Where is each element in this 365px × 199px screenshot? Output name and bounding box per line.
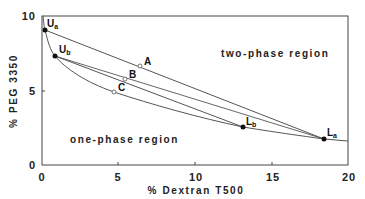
y-axis-label: % PEG 3350 <box>8 54 19 128</box>
x-tick-20: 20 <box>342 171 356 183</box>
label-ub: Ub <box>59 44 71 56</box>
point-lb <box>241 125 246 130</box>
y-tick-10: 10 <box>22 10 36 22</box>
point-b <box>123 77 127 81</box>
x-axis-label: % Dextran T500 <box>148 185 245 196</box>
x-tick-5: 5 <box>114 171 121 183</box>
y-tick-5: 5 <box>29 85 36 97</box>
label-ua: Ua <box>47 18 58 30</box>
y-tick-0: 0 <box>29 159 36 171</box>
label-la: La <box>327 127 337 139</box>
point-ub <box>53 54 58 59</box>
point-a <box>138 64 142 68</box>
two-phase-region-label: two-phase region <box>221 48 329 59</box>
x-tick-0: 0 <box>38 171 45 183</box>
binodal-curve <box>43 16 348 141</box>
x-tick-10: 10 <box>189 171 203 183</box>
point-c <box>112 90 116 94</box>
point-la <box>322 137 327 142</box>
label-b: B <box>129 69 136 80</box>
axis-ticks <box>42 91 272 165</box>
line-c <box>55 56 324 139</box>
x-tick-15: 15 <box>266 171 280 183</box>
label-a: A <box>144 56 151 67</box>
tie-line-a <box>45 30 324 139</box>
one-phase-region-label: one-phase region <box>70 134 179 145</box>
label-c: C <box>118 82 125 93</box>
phase-diagram: 0 5 10 15 20 0 5 10 % Dextran T500 % PEG… <box>0 0 365 199</box>
